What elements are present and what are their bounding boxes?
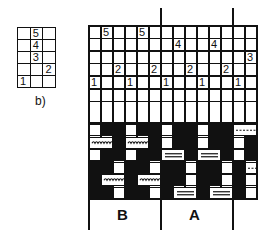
section-divider <box>88 198 90 230</box>
float-mark-wavy <box>137 174 161 186</box>
float-mark-double-line <box>161 149 185 161</box>
pattern-cell-white <box>185 174 197 186</box>
pattern-cell-black <box>88 173 101 186</box>
pattern-cell-black <box>244 148 257 161</box>
pattern-cell-white <box>161 137 173 149</box>
pattern-cell-white <box>197 124 209 136</box>
pattern-cell-white <box>197 137 209 149</box>
section-divider <box>232 8 234 25</box>
pattern-cell-black <box>232 161 245 174</box>
grid-row-line <box>88 75 258 77</box>
pattern-cell-black <box>100 161 113 174</box>
pattern-cell-black <box>220 136 233 149</box>
float-mark-double-line <box>209 187 233 199</box>
pattern-cell-white <box>245 187 257 199</box>
float-mark-wavy <box>89 137 113 149</box>
pattern-cell-black <box>172 161 185 174</box>
pattern-cell-black <box>232 173 245 186</box>
section-divider <box>160 8 162 25</box>
pattern-cell-black <box>124 161 137 174</box>
pattern-cell-black <box>208 173 221 186</box>
pattern-cell-black <box>244 136 257 149</box>
header-number: 2 <box>115 64 121 75</box>
section-divider <box>160 198 162 230</box>
pattern-cell-black <box>208 161 221 174</box>
section-label-b: B <box>117 206 128 223</box>
pattern-cell-white <box>125 124 137 136</box>
header-number: 1 <box>235 77 241 88</box>
grid-row-line <box>88 101 258 103</box>
grid-row-line <box>88 63 258 65</box>
float-mark-wavy <box>101 174 125 186</box>
pattern-cell-black <box>196 173 209 186</box>
header-number: 5 <box>103 27 109 38</box>
pattern-cell-white <box>245 174 257 186</box>
header-number: 1 <box>91 77 97 88</box>
pattern-cell-black <box>148 123 161 136</box>
header-number: 1 <box>163 77 169 88</box>
grid-row-line <box>88 50 258 52</box>
pattern-cell-white <box>89 149 101 161</box>
pattern-cell-white <box>221 174 233 186</box>
pattern-cell-white <box>185 162 197 174</box>
grid-row-line <box>88 38 258 40</box>
grid-row-line <box>88 25 258 27</box>
pattern-cell-white <box>149 187 161 199</box>
small-grid-label: b) <box>35 94 46 108</box>
pattern-cell-black <box>148 148 161 161</box>
pattern-cell-white <box>149 162 161 174</box>
pattern-cell-black <box>100 148 113 161</box>
section-divider <box>232 198 234 230</box>
pattern-cell-black <box>112 148 125 161</box>
small-grid-cell <box>42 75 56 88</box>
pattern-cell-black <box>136 123 149 136</box>
pattern-cell-black <box>100 186 113 199</box>
pattern-cell-black <box>100 123 113 136</box>
float-mark-dashed <box>245 162 257 174</box>
small-grid-cell <box>30 75 44 88</box>
pattern-cell-black <box>88 186 101 199</box>
header-number: 3 <box>247 52 253 63</box>
pattern-cell-black <box>136 186 149 199</box>
pattern-cell-white <box>113 162 125 174</box>
pattern-cell-black <box>184 123 197 136</box>
pattern-cell-black <box>220 123 233 136</box>
pattern-cell-black <box>196 161 209 174</box>
header-number: 2 <box>187 64 193 75</box>
pattern-cell-black <box>88 161 101 174</box>
pattern-cell-black <box>172 123 185 136</box>
small-grid-number: 3 <box>33 52 39 63</box>
pattern-cell-black <box>136 161 149 174</box>
float-mark-dashed <box>233 124 257 136</box>
small-grid-number: 5 <box>33 28 39 39</box>
double-line-icon <box>210 188 234 201</box>
pattern-cell-white <box>221 162 233 174</box>
pattern-cell-white <box>125 149 137 161</box>
pattern-cell-black <box>172 136 185 149</box>
pattern-cell-black <box>160 161 173 174</box>
small-grid-number: 4 <box>33 40 39 51</box>
header-number: 4 <box>211 39 217 50</box>
small-grid-number: 2 <box>45 64 51 75</box>
pattern-cell-white <box>161 124 173 136</box>
float-mark-wavy <box>125 137 149 149</box>
pattern-cell-black <box>124 186 137 199</box>
pattern-cell-black <box>208 136 221 149</box>
pattern-cell-black <box>208 123 221 136</box>
grid-row-line <box>88 88 258 90</box>
pattern-cell-black <box>112 123 125 136</box>
pattern-cell-black <box>172 173 185 186</box>
header-number: 1 <box>199 77 205 88</box>
float-mark-double-line <box>197 149 221 161</box>
header-number: 2 <box>223 64 229 75</box>
header-number: 2 <box>151 64 157 75</box>
small-grid-number: 1 <box>20 76 26 87</box>
pattern-cell-white <box>89 124 101 136</box>
section-label-a: A <box>189 206 200 223</box>
pattern-cell-black <box>136 148 149 161</box>
header-number: 1 <box>127 77 133 88</box>
pattern-cell-white <box>233 137 245 149</box>
float-mark-double-line <box>173 187 197 199</box>
pattern-cell-black <box>160 186 173 199</box>
double-line-icon <box>174 188 198 201</box>
